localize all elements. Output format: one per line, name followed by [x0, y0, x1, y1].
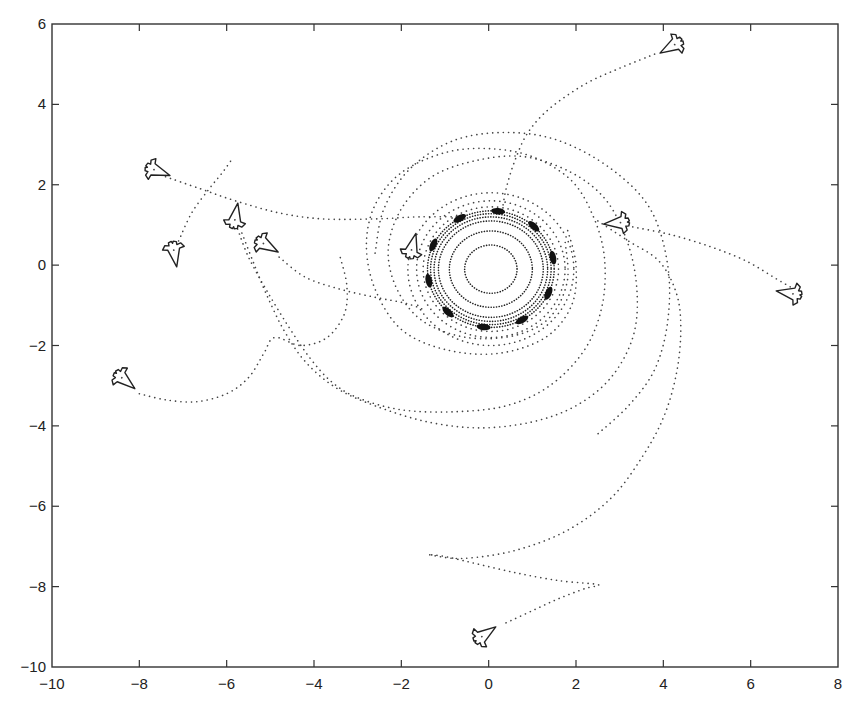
y-tick-label: 4: [38, 95, 46, 112]
traj-4: [279, 257, 423, 309]
traj-2: [179, 161, 231, 241]
axes-frame: [52, 24, 838, 667]
formation-ring-5: [449, 231, 532, 307]
x-tick-label: 4: [659, 675, 667, 692]
aircraft-icon: [468, 618, 502, 651]
y-tick-label: −8: [29, 578, 46, 595]
formation-ring-3: [434, 217, 548, 321]
y-tick-label: 0: [38, 256, 46, 273]
x-tick-label: −8: [131, 675, 148, 692]
traj-5: [139, 257, 347, 402]
aircraft-icon: [774, 280, 803, 306]
x-axis-ticks: −10−8−6−4−202468: [39, 24, 842, 692]
approach-ring-1: [408, 193, 574, 346]
formation-cluster: [427, 237, 439, 252]
aircraft-icon: [603, 211, 631, 235]
x-tick-label: −6: [218, 675, 235, 692]
traj-1: [166, 177, 463, 220]
trajectory-layer: [139, 54, 794, 623]
agent-markers: [108, 31, 804, 651]
y-tick-label: −10: [21, 658, 46, 675]
formation-cluster: [424, 273, 433, 288]
approach-ring-3: [423, 207, 558, 332]
plot-figure: −10−8−6−4−202468 6420−2−4−6−8−10: [0, 0, 865, 712]
aircraft-icon: [108, 364, 142, 398]
x-tick-label: −2: [393, 675, 410, 692]
y-tick-label: −2: [29, 337, 46, 354]
traj-7: [633, 227, 795, 289]
traj-6: [242, 156, 637, 428]
formation-cluster: [548, 250, 557, 265]
target-circle-formation: [408, 193, 574, 346]
y-tick-label: −4: [29, 417, 46, 434]
aircraft-icon: [161, 239, 187, 268]
x-tick-label: 6: [746, 675, 754, 692]
aircraft-icon: [222, 201, 248, 230]
formation-cluster: [476, 323, 491, 331]
formation-ring-4: [438, 221, 543, 317]
formation-ring-6: [465, 245, 517, 293]
x-tick-label: −4: [305, 675, 322, 692]
y-tick-label: −6: [29, 497, 46, 514]
aircraft-icon: [142, 156, 174, 186]
x-tick-label: 2: [572, 675, 580, 692]
traj-10: [428, 555, 599, 623]
y-tick-label: 2: [38, 176, 46, 193]
x-tick-label: −10: [39, 675, 64, 692]
aircraft-icon: [654, 31, 688, 63]
x-tick-label: 0: [484, 675, 492, 692]
aircraft-icon: [399, 231, 427, 262]
x-tick-label: 8: [834, 675, 842, 692]
y-tick-label: 6: [38, 15, 46, 32]
traj-outer-arc: [375, 133, 670, 434]
